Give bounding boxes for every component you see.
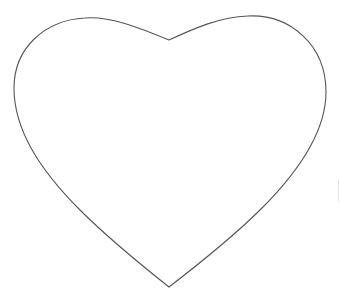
heart-icon	[0, 0, 340, 306]
heart-outline	[14, 16, 326, 287]
heart-canvas	[0, 0, 340, 306]
edge-artifact	[338, 180, 339, 202]
